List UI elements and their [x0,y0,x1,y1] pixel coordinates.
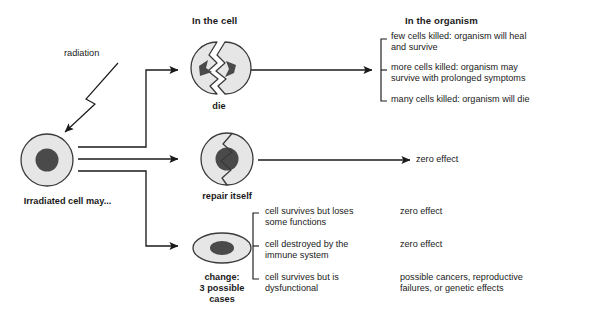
organism-outcomes-bracket [381,39,387,101]
change-case-1-effect: zero effect [400,206,442,217]
split-cell-icon [186,37,252,99]
cracked-cell-icon [196,128,258,190]
organism-consequence-2: more cells killed: organism may survive … [391,62,525,84]
change-case-3-effect: possible cancers, reproductive failures,… [400,272,523,294]
irradiated-cell-label: Irradiated cell may... [0,196,135,207]
branch-to-die [78,70,178,147]
organism-consequence-1: few cells killed: organism will heal and… [391,31,526,53]
mutated-cell-icon [186,228,258,268]
radiation-label: radiation [64,48,99,59]
repair-effect: zero effect [416,154,458,165]
in-the-cell-heading: In the cell [192,15,237,27]
organism-consequence-3: many cells killed: organism will die [391,94,529,105]
die-cell-label: die [186,101,252,112]
change-case-1-description: cell survives but loses some functions [265,206,353,228]
change-case-3-description: cell survives but is dysfunctional [265,272,339,294]
radiation-cell-effects-diagram: In the cell In the organism radiation Ir… [0,0,592,311]
change-cell-label: change: 3 possible cases [186,272,258,306]
in-the-organism-heading: In the organism [405,15,478,27]
radiation-arrow-icon [65,63,118,132]
branch-to-change [78,171,178,246]
repair-cell-label: repair itself [182,191,272,202]
change-case-2-effect: zero effect [400,239,442,250]
change-case-2-description: cell destroyed by the immune system [265,239,348,261]
irradiated-cell-icon [16,129,78,191]
